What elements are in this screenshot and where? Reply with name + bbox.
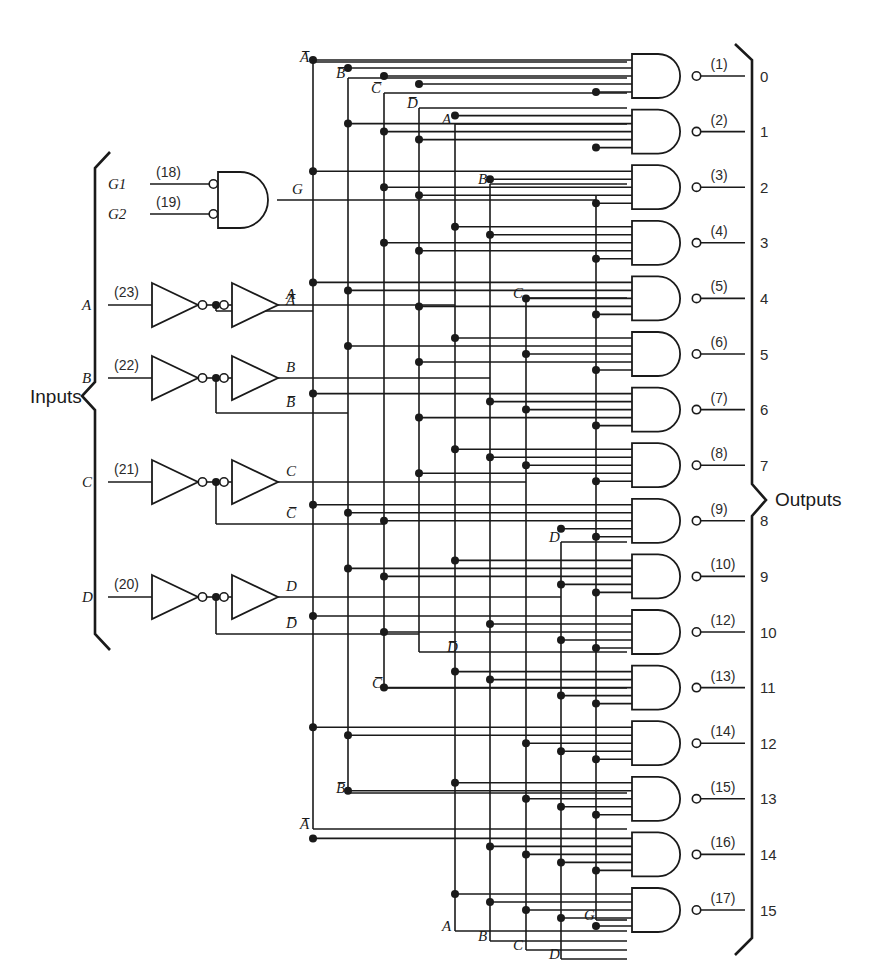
output-bubble-11 [692,683,700,691]
bus-label-bottom-6: C [513,937,524,953]
inverter2-bubble-A [220,301,228,309]
output-number-12: 12 [760,735,777,752]
output-bubble-12 [692,739,700,747]
tap-C-gate4 [522,294,530,302]
output-bubble-8 [692,517,700,525]
bus-label-bottom-8: G [584,907,595,923]
buffer-node-B [212,374,220,382]
inverter1-B [152,356,198,400]
tap-Anot-gate12 [309,723,317,731]
tap-B-gate14 [486,842,494,850]
enable-input-bubble-g1 [209,180,217,188]
tap-Bnot-gate4 [344,286,352,294]
output-bubble-9 [692,572,700,580]
bus-label-top-0: A̅ [299,49,310,65]
bus-label-bottom-2: B̅ [336,780,346,796]
output-bubble-0 [692,72,700,80]
tap-C-gate14 [522,850,530,858]
tap-G-gate10 [592,644,600,652]
nand-gate-0 [632,54,680,98]
tap-G-gate15 [592,922,600,930]
bus-label-top-5: B [478,171,487,187]
tap-D-gate9 [557,580,565,588]
inverter2-C [232,460,278,504]
bus-label-top-6: C [513,285,524,301]
tap-Cnot-gate10 [380,628,388,636]
tap-Bnot-gate8 [344,509,352,517]
nand-gate-3 [632,221,680,265]
tap-Dnot-gate2 [415,191,423,199]
tap-G-gate14 [592,866,600,874]
input-label-B: B [82,370,91,386]
inverter1-A [152,283,198,327]
tap-Dnot-gate7 [415,469,423,477]
tap-C-gate13 [522,795,530,803]
enable-nand-gate [218,172,268,228]
output-bubble-4 [692,294,700,302]
output-bubble-5 [692,350,700,358]
output-pin-1: (2) [711,112,728,128]
output-number-1: 1 [760,123,768,140]
output-number-2: 2 [760,179,768,196]
tap-G-gate9 [592,588,600,596]
output-number-11: 11 [760,679,776,696]
tap-G-gate7 [592,477,600,485]
tap-Dnot-gate1 [415,136,423,144]
comp-signal-label-B: B̅ [286,394,296,410]
bus-label-top-2: C̅ [371,80,382,96]
inverter1-D [152,575,198,619]
tap-Anot-gate6 [309,390,317,398]
tap-A-gate15 [451,890,459,898]
bus-label-bottom-3: A̅ [299,816,310,832]
input-label-D: D [81,589,93,605]
tap-C-gate7 [522,461,530,469]
output-number-7: 7 [760,457,768,474]
nand-gate-13 [632,777,680,821]
tap-B-gate7 [486,453,494,461]
nand-gate-9 [632,554,680,598]
tap-D-gate14 [557,858,565,866]
input-pin-D: (20) [114,576,139,592]
inverter2-B [232,356,278,400]
comp-signal-label-D: D̅ [285,615,297,631]
tap-G-gate2 [592,199,600,207]
tap-D-gate15 [557,914,565,922]
g1-label: G1 [108,176,126,192]
schematic-canvas: (1)0(2)1(3)2(4)3(5)4(6)5(7)6(8)7(9)8(10)… [0,0,878,973]
tap-Anot-gate14 [309,834,317,842]
tap-Cnot-gate0 [380,72,388,80]
tap-Anot-gate8 [309,501,317,509]
tap-Cnot-gate9 [380,572,388,580]
nand-gate-8 [632,499,680,543]
inverter2-A [232,283,278,327]
output-pin-4: (5) [711,278,728,294]
tap-Dnot-gate5 [415,358,423,366]
input-pin-B: (22) [114,357,139,373]
tap-G-gate11 [592,700,600,708]
tap-C-gate6 [522,406,530,414]
bus-label-bottom-5: B [478,928,487,944]
output-bubble-15 [692,906,700,914]
tap-Cnot-gate8 [380,517,388,525]
output-pin-6: (7) [711,390,728,406]
nand-gate-1 [632,110,680,154]
input-label-C: C [82,474,93,490]
comp-signal-label-C: C̅ [286,505,297,521]
tap-G-gate1 [592,144,600,152]
tap-Bnot-gate1 [344,120,352,128]
nand-gate-5 [632,332,680,376]
output-number-8: 8 [760,512,768,529]
output-pin-13: (15) [711,779,736,795]
tap-C-gate12 [522,739,530,747]
tap-Anot-gate2 [309,167,317,175]
tap-G-gate5 [592,366,600,374]
tap-A-gate11 [451,668,459,676]
buffer-node-D [212,593,220,601]
output-pin-10: (12) [711,612,736,628]
tap-A-gate13 [451,779,459,787]
output-pin-8: (9) [711,501,728,517]
inverter1-bubble-A [198,301,206,309]
tap-G-gate6 [592,422,600,430]
output-pin-2: (3) [711,167,728,183]
tap-Bnot-gate5 [344,342,352,350]
